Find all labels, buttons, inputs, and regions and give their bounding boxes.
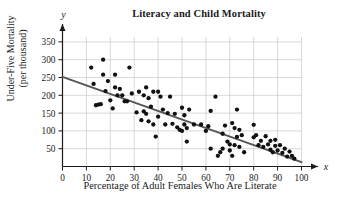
data-point — [216, 154, 220, 158]
chart-figure: Literacy and Child Mortality Under-Five … — [0, 0, 346, 201]
data-point — [125, 99, 129, 103]
data-point — [209, 147, 213, 151]
y-tick-label: 300 — [42, 55, 56, 65]
data-point — [254, 133, 258, 137]
x-tick-label: 100 — [295, 173, 309, 183]
data-point — [220, 132, 224, 136]
data-point — [204, 129, 208, 133]
data-point — [127, 65, 131, 69]
data-point — [180, 106, 184, 110]
data-point — [89, 65, 93, 69]
y-tick-label: 150 — [42, 109, 56, 119]
data-point — [146, 119, 150, 123]
x-tick-label: 10 — [82, 173, 92, 183]
data-point — [273, 144, 277, 148]
data-point — [235, 135, 239, 139]
data-point — [134, 110, 138, 114]
data-point — [228, 142, 232, 146]
data-point — [285, 154, 289, 158]
data-point — [113, 85, 117, 89]
data-point — [232, 143, 236, 147]
data-point — [111, 106, 115, 110]
data-point — [230, 121, 234, 125]
x-tick-label: 40 — [153, 173, 163, 183]
data-point — [220, 147, 224, 151]
data-point — [206, 124, 210, 128]
y-tick-label: 100 — [42, 126, 56, 136]
data-point — [180, 129, 184, 133]
data-point — [192, 122, 196, 126]
data-point — [113, 73, 117, 77]
data-point — [230, 154, 234, 158]
data-point — [166, 111, 170, 115]
scatter-plot: 0102030405060708090100501001502002503003… — [0, 0, 346, 201]
data-point — [103, 89, 107, 93]
data-point — [137, 90, 141, 94]
data-point — [223, 123, 227, 127]
x-axis-letter: x — [323, 161, 329, 172]
data-point — [144, 112, 148, 116]
data-points — [89, 58, 296, 161]
data-point — [91, 82, 95, 86]
data-point — [168, 95, 172, 99]
data-point — [156, 90, 160, 94]
data-point — [240, 133, 244, 137]
tick-labels: 0102030405060708090100501001502002503003… — [42, 37, 309, 182]
data-point — [266, 142, 270, 146]
x-tick-label: 30 — [130, 173, 140, 183]
data-point — [101, 73, 105, 77]
data-point — [242, 150, 246, 154]
axis-lines — [60, 24, 319, 170]
data-point — [275, 148, 279, 152]
data-point — [156, 115, 160, 119]
x-tick-label: 70 — [225, 173, 235, 183]
data-point — [163, 122, 167, 126]
y-tick-label: 250 — [42, 73, 56, 83]
data-point — [256, 143, 260, 147]
data-point — [161, 107, 165, 111]
data-point — [259, 139, 263, 143]
data-point — [264, 134, 268, 138]
data-point — [292, 157, 296, 161]
data-point — [142, 93, 146, 97]
data-point — [261, 145, 265, 149]
data-point — [173, 112, 177, 116]
data-point — [151, 90, 155, 94]
data-point — [108, 98, 112, 102]
data-point — [120, 93, 124, 97]
data-point — [185, 126, 189, 130]
data-point — [287, 149, 291, 153]
data-point — [144, 85, 148, 89]
data-point — [235, 107, 239, 111]
y-tick-label: 50 — [46, 144, 56, 154]
data-point — [99, 102, 103, 106]
data-point — [232, 126, 236, 130]
data-point — [154, 134, 158, 138]
y-axis-letter: y — [60, 9, 66, 20]
data-point — [199, 122, 203, 126]
data-point — [182, 122, 186, 126]
data-point — [278, 143, 282, 147]
gridlines — [63, 37, 302, 167]
y-tick-label: 350 — [42, 37, 56, 47]
x-tick-label: 90 — [273, 173, 283, 183]
data-point — [118, 87, 122, 91]
data-point — [187, 107, 191, 111]
data-point — [237, 128, 241, 132]
x-tick-label: 20 — [106, 173, 116, 183]
data-point — [149, 105, 153, 109]
data-point — [213, 95, 217, 99]
data-point — [170, 122, 174, 126]
data-point — [101, 58, 105, 62]
data-point — [218, 150, 222, 154]
data-point — [271, 150, 275, 154]
data-point — [139, 118, 143, 122]
x-tick-label: 50 — [177, 173, 187, 183]
y-tick-label: 200 — [42, 91, 56, 101]
data-point — [106, 79, 110, 83]
x-tick-label: 60 — [201, 173, 211, 183]
x-tick-label: 0 — [60, 173, 65, 183]
data-point — [228, 148, 232, 152]
data-point — [185, 139, 189, 143]
data-point — [209, 109, 213, 113]
